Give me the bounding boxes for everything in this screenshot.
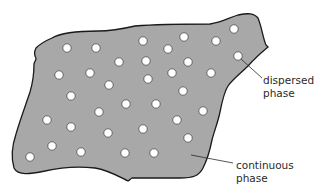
particle — [104, 129, 112, 137]
particle — [86, 69, 94, 77]
particle — [179, 87, 187, 95]
particle — [199, 107, 207, 115]
dispersed-phase-label: dispersed phase — [263, 74, 314, 100]
particle — [164, 45, 172, 53]
particle — [77, 148, 85, 156]
particle — [122, 100, 130, 108]
continuous-label-line1: continuous — [236, 159, 294, 172]
particle — [55, 71, 63, 79]
particle — [168, 69, 176, 77]
particle — [142, 57, 150, 65]
particle — [230, 25, 238, 33]
continuous-label-line2: phase — [236, 172, 294, 185]
particle — [152, 100, 160, 108]
particle — [105, 81, 113, 89]
particle — [92, 44, 100, 52]
particle — [63, 44, 71, 52]
particle — [212, 37, 220, 45]
particle — [234, 52, 242, 60]
particle — [48, 142, 56, 150]
particle — [95, 108, 103, 116]
particle — [139, 125, 147, 133]
particle — [173, 116, 181, 124]
particle — [121, 149, 129, 157]
particle — [207, 69, 215, 77]
particle — [180, 33, 188, 41]
particle — [43, 116, 51, 124]
dispersed-label-line2: phase — [263, 87, 314, 100]
particle — [115, 58, 123, 66]
particle — [184, 58, 192, 66]
particle — [150, 149, 158, 157]
particle — [139, 37, 147, 45]
particle — [67, 123, 75, 131]
dispersed-label-line1: dispersed — [263, 74, 314, 87]
particle — [26, 153, 34, 161]
particle — [184, 134, 192, 142]
particle — [67, 92, 75, 100]
particle — [144, 75, 152, 83]
continuous-phase-label: continuous phase — [236, 159, 294, 185]
